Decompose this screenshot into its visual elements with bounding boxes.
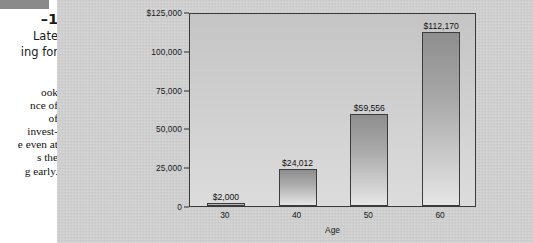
caption-column: –1 Late ing for ook nce of of invest- e …: [0, 0, 57, 243]
y-axis-tick-label: 75,000: [62, 86, 182, 96]
x-axis-tick-label: 60: [435, 210, 444, 220]
y-axis-tick-label: 100,000: [62, 47, 182, 57]
figure-body-line: s the: [0, 151, 57, 164]
bar-value-label: $24,012: [282, 158, 313, 168]
y-axis-tick-mark: [184, 207, 189, 208]
chart-panel: $125,000100,00075,00050,00025,0000 $2,00…: [57, 0, 533, 243]
y-axis-tick-label: 50,000: [62, 124, 182, 134]
figure-body-line: e even at: [0, 138, 57, 151]
figure-body-line: ook: [0, 86, 57, 99]
figure-heading-line: ing for: [0, 45, 57, 61]
figure-body-line: of: [0, 112, 57, 125]
figure-heading: Late ing for: [0, 29, 57, 60]
y-axis-tick-label: 25,000: [62, 163, 182, 173]
figure-body-text: ook nce of of invest- e even at s the g …: [0, 86, 57, 178]
y-axis-tick-mark: [184, 129, 189, 130]
bar-value-label: $2,000: [213, 192, 239, 202]
y-axis-tick-mark: [184, 51, 189, 52]
bar: $112,170: [422, 32, 460, 206]
bar-value-label: $59,556: [354, 103, 385, 113]
caption-rule: [0, 0, 49, 9]
y-axis-tick-mark: [184, 90, 189, 91]
bar-value-label: $112,170: [424, 21, 459, 31]
y-axis-tick-mark: [184, 168, 189, 169]
x-axis-tick-label: 50: [364, 210, 373, 220]
x-axis-tick-label: 30: [220, 210, 229, 220]
figure-number: –1: [0, 11, 57, 28]
bar: $24,012: [279, 169, 317, 206]
bar: $2,000: [207, 203, 245, 206]
y-axis-tick-label: 0: [62, 202, 182, 212]
figure-heading-line: Late: [0, 29, 57, 45]
plot-area: $2,000$24,012$59,556$112,170: [189, 13, 476, 207]
y-axis-tick-label: $125,000: [62, 8, 182, 18]
x-axis-tick-label: 40: [292, 210, 301, 220]
figure-body-line: invest-: [0, 125, 57, 138]
figure-body-line: nce of: [0, 99, 57, 112]
figure-screenshot: –1 Late ing for ook nce of of invest- e …: [0, 0, 533, 243]
bar: $59,556: [350, 114, 388, 206]
x-axis-title: Age: [189, 225, 476, 235]
figure-body-line: g early.: [0, 165, 57, 178]
y-axis-tick-mark: [184, 13, 189, 14]
